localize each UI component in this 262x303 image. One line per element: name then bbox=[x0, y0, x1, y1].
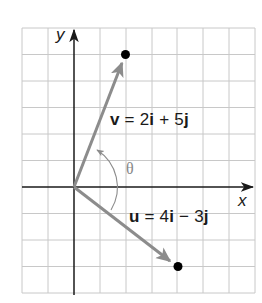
vector-diagram bbox=[0, 0, 262, 303]
v-eq: = 2 bbox=[120, 110, 150, 129]
u-eq: = 4 bbox=[140, 207, 170, 226]
grid bbox=[22, 28, 255, 293]
x-axis-label: x bbox=[238, 191, 247, 211]
u-j: j bbox=[204, 207, 209, 226]
u-minus: − 3 bbox=[174, 207, 204, 226]
vector-v-label: v = 2i + 5j bbox=[110, 110, 189, 130]
v-var: v bbox=[110, 110, 120, 129]
angle-theta-label: θ bbox=[126, 160, 134, 178]
point-u bbox=[174, 262, 183, 271]
y-axis-label: y bbox=[56, 25, 65, 45]
v-plus: + 5 bbox=[154, 110, 184, 129]
v-j: j bbox=[184, 110, 189, 129]
u-var: u bbox=[129, 207, 140, 226]
point-v bbox=[121, 50, 130, 59]
vector-u-label: u = 4i − 3j bbox=[129, 207, 209, 227]
